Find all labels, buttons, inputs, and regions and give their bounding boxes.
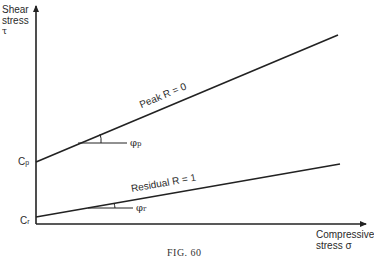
y-axis-label: Shear stress τ <box>2 4 29 37</box>
figure-caption: FIG. 60 <box>167 247 202 258</box>
peak-angle-sub: p <box>137 140 141 148</box>
peak-intercept-sub: p <box>25 159 29 166</box>
diagram-canvas <box>0 0 374 261</box>
peak-angle-label: φp <box>130 137 142 150</box>
residual-intercept-sub: r <box>27 218 29 225</box>
residual-angle-sub: r <box>143 205 146 213</box>
y-axis-label-line1: Shear <box>2 4 29 15</box>
residual-intercept-label: Cr <box>20 215 30 227</box>
x-axis-label: Compressive stress σ <box>316 229 374 251</box>
x-axis-label-line2: stress σ <box>316 240 374 251</box>
y-axis-symbol: τ <box>2 26 29 37</box>
residual-angle-label: φr <box>136 202 146 215</box>
x-axis-label-line1: Compressive <box>316 229 374 240</box>
residual-angle-base: φ <box>136 202 143 213</box>
y-axis-label-line2: stress <box>2 15 29 26</box>
peak-angle-base: φ <box>130 137 137 148</box>
peak-intercept-label: Cp <box>18 156 29 168</box>
